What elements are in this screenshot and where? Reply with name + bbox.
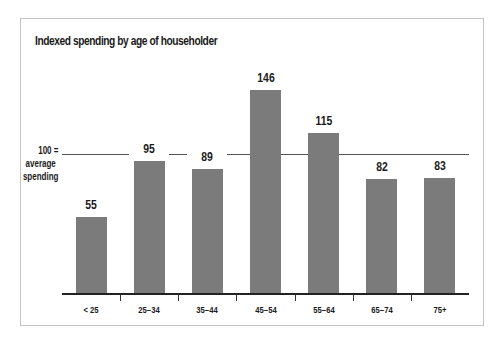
x-axis-tick <box>353 295 354 301</box>
x-axis-tick <box>178 295 179 301</box>
x-axis-category-label: 55–64 <box>298 305 349 315</box>
bar-value-label: 82 <box>362 159 402 174</box>
bar <box>366 179 397 293</box>
bar-value-label: 95 <box>129 141 169 156</box>
reference-text-line-1: average <box>22 157 58 170</box>
x-axis-category-label: 65–74 <box>356 305 407 315</box>
x-axis-category-label: 25–34 <box>124 305 175 315</box>
chart-title: Indexed spending by age of householder <box>35 34 217 48</box>
x-axis-baseline <box>62 293 469 295</box>
bar <box>308 133 339 293</box>
bar <box>192 169 223 293</box>
bar-value-label: 89 <box>187 149 227 164</box>
bar-value-label: 55 <box>71 197 111 212</box>
x-axis-category-label: 35–44 <box>182 305 233 315</box>
x-axis-category-label: < 25 <box>66 305 117 315</box>
bar-value-label: 115 <box>304 113 344 128</box>
x-axis-tick <box>120 295 121 301</box>
reference-value-label: 100 = <box>22 144 58 157</box>
bar <box>250 90 281 293</box>
bar <box>76 217 107 293</box>
x-axis-tick <box>295 295 296 301</box>
bar <box>134 161 165 293</box>
bar <box>424 178 455 293</box>
x-axis-tick <box>411 295 412 301</box>
x-axis-category-label: 45–54 <box>240 305 291 315</box>
x-axis-category-label: 75+ <box>414 305 465 315</box>
x-axis-tick <box>236 295 237 301</box>
reference-line-label: 100 = average spending <box>22 144 58 183</box>
bar-value-label: 146 <box>246 70 286 85</box>
reference-text-line-2: spending <box>22 170 58 183</box>
bar-value-label: 83 <box>420 158 460 173</box>
